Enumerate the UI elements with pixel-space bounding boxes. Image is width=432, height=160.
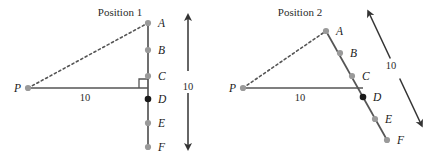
point-dot-a: [145, 20, 151, 26]
point-label-c: C: [362, 70, 370, 82]
scale-arrow-upper-half: [369, 13, 390, 59]
point-label-a: A: [335, 25, 344, 37]
point-dot-c: [349, 73, 355, 79]
point-label-d: D: [372, 91, 382, 103]
dashed-segment-pivot-to-a: [28, 23, 148, 88]
point-dot-b: [145, 47, 151, 53]
point-label-e: E: [157, 117, 165, 129]
point-label-pivot: P: [13, 82, 21, 94]
point-dot-e: [372, 116, 378, 122]
point-dot-c: [145, 73, 151, 79]
point-dot-f: [384, 137, 390, 143]
point-dot-pivot: [25, 85, 31, 91]
point-label-d: D: [157, 93, 167, 105]
point-label-f: F: [396, 134, 405, 146]
point-label-f: F: [157, 141, 166, 153]
geometry-figure: Position 1PABCDEF1010Position 2PABCDEF10…: [0, 0, 432, 160]
distance-label-horizontal: 10: [80, 92, 91, 103]
panel-position-2: Position 2PABCDEF1010: [228, 6, 421, 146]
right-angle-marker: [139, 79, 148, 88]
point-dot-a: [323, 28, 329, 34]
scale-arrow-lower-half: [400, 78, 421, 124]
point-dot-f: [145, 144, 151, 150]
point-label-a: A: [157, 17, 166, 29]
point-label-c: C: [158, 70, 166, 82]
figure-canvas: Position 1PABCDEF1010Position 2PABCDEF10…: [0, 0, 432, 160]
point-label-b: B: [158, 44, 165, 56]
scale-arrow-label: 10: [183, 81, 194, 92]
point-label-e: E: [384, 113, 392, 125]
point-label-b: B: [350, 47, 357, 59]
point-dot-d: [360, 94, 367, 101]
panel-title-position-2: Position 2: [278, 6, 322, 18]
point-label-pivot: P: [228, 82, 236, 94]
panels-group: Position 1PABCDEF1010Position 2PABCDEF10…: [13, 6, 421, 153]
point-dot-pivot: [240, 85, 246, 91]
panel-title-position-1: Position 1: [98, 6, 142, 18]
distance-label-horizontal: 10: [295, 92, 306, 103]
point-dot-b: [337, 50, 343, 56]
point-dot-e: [145, 120, 151, 126]
panel-position-1: Position 1PABCDEF1010: [13, 6, 193, 153]
scale-arrow-label: 10: [386, 60, 397, 71]
dashed-segment-pivot-to-a: [243, 31, 326, 88]
point-dot-d: [145, 96, 152, 103]
